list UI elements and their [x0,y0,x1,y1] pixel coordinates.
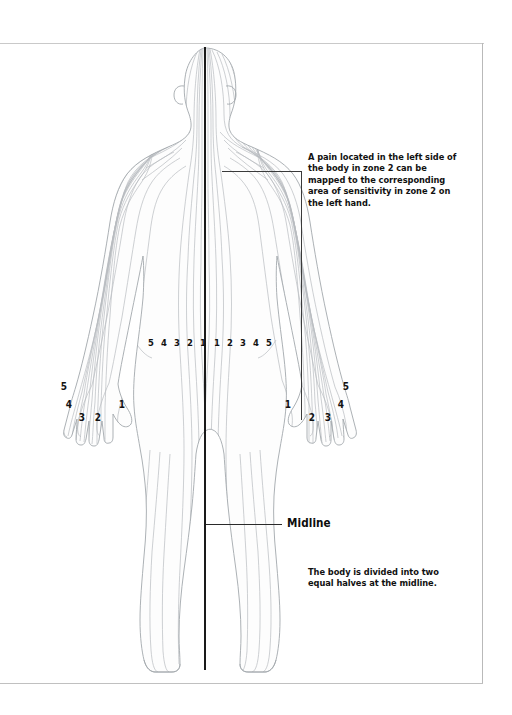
zone-number-left-4: 4 [159,337,169,348]
zone-annotation-leader-vertical [301,171,302,420]
midline-annotation-text: The body is divided into two equal halve… [308,566,458,589]
zone-number-right-5: 5 [264,337,274,348]
left-hand-zone-5: 5 [59,381,69,392]
zone-number-right-3: 3 [238,337,248,348]
midline-label: Midline [287,516,331,530]
right-hand-zone-2: 2 [307,412,317,423]
diagram-page: A pain located in the left side of the b… [0,0,512,715]
zone-number-right-1: 1 [212,337,222,348]
right-hand-zone-1: 1 [283,399,293,410]
left-hand-zone-3: 3 [77,412,87,423]
zone-number-left-3: 3 [172,337,182,348]
left-hand-zone-4: 4 [64,399,74,410]
left-hand-zone-1: 1 [117,399,127,410]
zone-annotation-leader-horizontal [222,171,302,172]
zone-number-right-2: 2 [225,337,235,348]
midline-vertical-line [204,47,206,670]
right-hand-zone-3: 3 [323,412,333,423]
midline-label-leader-line [206,524,282,525]
zone-number-left-1: 1 [198,337,208,348]
right-hand-zone-5: 5 [341,381,351,392]
page-frame-bottom-rule [0,683,483,684]
zone-annotation-text: A pain located in the left side of the b… [308,151,458,208]
right-hand-zone-4: 4 [336,399,346,410]
zone-number-left-2: 2 [185,337,195,348]
page-frame-right-rule [482,43,483,684]
left-hand-zone-2: 2 [93,412,103,423]
zone-number-left-5: 5 [146,337,156,348]
zone-number-right-4: 4 [251,337,261,348]
